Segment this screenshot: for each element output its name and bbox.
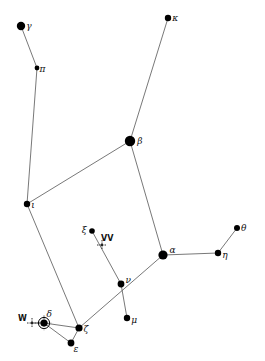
star-gamma: γ	[17, 21, 32, 31]
line-pi-iota	[27, 68, 37, 204]
line-beta-kappa	[130, 18, 168, 141]
star-label: θ	[241, 223, 247, 233]
star-label: ξ	[82, 225, 88, 235]
line-gamma-pi	[21, 26, 37, 68]
star-dot-icon	[118, 281, 125, 288]
star-dot-icon	[89, 228, 95, 234]
variable-label: W	[18, 314, 27, 323]
star-label: ν	[125, 275, 131, 285]
stars: γπκβιξαηθνμζεδ	[17, 13, 247, 354]
star-dot-icon	[165, 15, 171, 21]
star-label: β	[136, 136, 142, 146]
star-dot-icon	[40, 319, 47, 326]
line-beta-alpha	[130, 141, 163, 255]
star-dot-icon	[75, 324, 82, 331]
star-dot-icon	[125, 136, 135, 146]
star-label: η	[222, 250, 228, 260]
variable-label: VV	[101, 234, 114, 243]
line-iota-zeta	[27, 204, 79, 328]
star-dot-icon	[124, 315, 130, 321]
line-zeta-alpha	[79, 255, 163, 328]
variable-star-W: W	[18, 314, 37, 328]
star-dot-icon	[215, 250, 221, 256]
constellation-lines	[21, 18, 237, 343]
star-dot-icon	[158, 250, 167, 259]
star-label: γ	[26, 21, 32, 31]
line-iota-beta	[27, 141, 130, 204]
variable-stars: VVW	[18, 234, 114, 328]
star-nu: ν	[118, 275, 132, 287]
star-label: α	[170, 245, 176, 255]
star-label: π	[38, 64, 46, 74]
star-theta: θ	[234, 223, 247, 233]
star-chart: VVW γπκβιξαηθνμζεδ	[0, 0, 265, 361]
star-label: ι	[31, 200, 35, 210]
star-xi: ξ	[82, 225, 95, 235]
star-dot-icon	[24, 201, 30, 207]
star-label: μ	[131, 315, 137, 325]
star-eta: η	[215, 250, 228, 260]
star-label: δ	[47, 309, 52, 319]
star-zeta: ζ	[75, 324, 89, 334]
star-label: ε	[73, 344, 78, 354]
star-label: κ	[171, 13, 178, 23]
star-mu: μ	[124, 315, 137, 325]
star-label: ζ	[84, 324, 90, 334]
star-dot-icon	[234, 225, 240, 231]
star-epsilon: ε	[68, 340, 79, 354]
star-beta: β	[125, 136, 143, 146]
variable-star-VV: VV	[97, 234, 114, 250]
star-dot-icon	[17, 22, 25, 30]
